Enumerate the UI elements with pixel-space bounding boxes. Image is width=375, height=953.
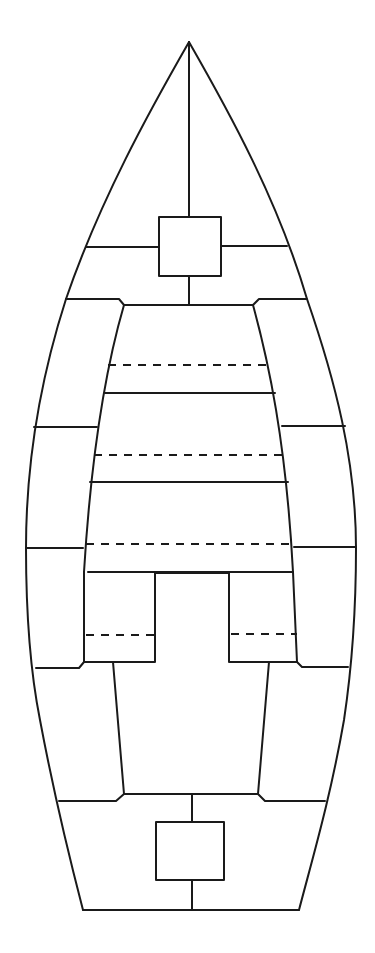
cockpit-wall-right <box>253 305 297 662</box>
forward-bulkhead <box>66 299 307 305</box>
bow-hatch <box>159 217 221 276</box>
hull-port-side <box>26 42 189 910</box>
aft-seat-notch <box>84 573 297 662</box>
aft-divider-left <box>36 662 84 668</box>
aft-leg-left <box>113 662 124 794</box>
stern-hatch <box>156 822 224 880</box>
cockpit-wall-left <box>84 305 124 662</box>
boat-deck-plan <box>0 0 375 953</box>
aft-divider-right <box>297 662 348 667</box>
hull-starboard-side <box>189 42 356 910</box>
aft-leg-right <box>258 662 269 794</box>
